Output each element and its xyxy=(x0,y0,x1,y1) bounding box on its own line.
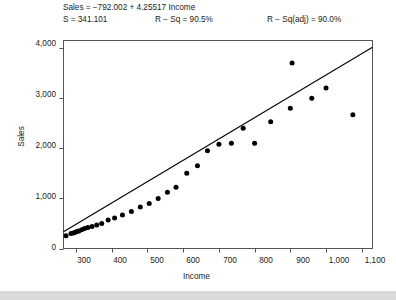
data-points xyxy=(64,61,356,239)
regression-figure: Sales = −792.002 + 4.25517 Income S = 34… xyxy=(0,0,396,300)
page-edge-band xyxy=(0,291,396,300)
regression-line xyxy=(64,47,373,231)
y-axis-ticks xyxy=(60,49,64,250)
x-axis-ticks xyxy=(77,249,363,253)
plot-canvas xyxy=(0,0,396,300)
